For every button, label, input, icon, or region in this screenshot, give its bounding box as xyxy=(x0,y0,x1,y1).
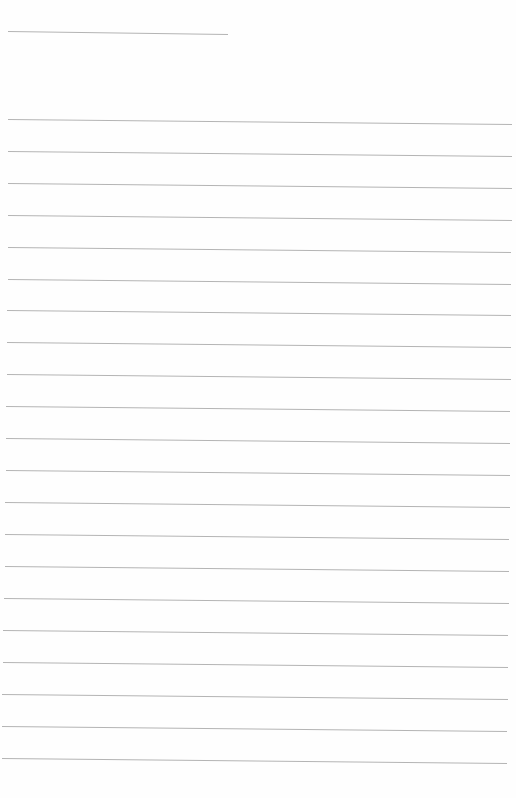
ruled-line xyxy=(8,216,512,221)
ruled-line xyxy=(8,152,512,157)
ruled-line xyxy=(5,567,509,572)
header-line xyxy=(8,32,228,35)
lined-paper-page xyxy=(0,0,516,798)
ruled-line xyxy=(6,471,510,476)
ruled-line xyxy=(8,280,511,285)
ruled-line xyxy=(7,375,511,380)
ruled-line xyxy=(3,663,508,668)
ruled-line xyxy=(4,599,509,604)
ruled-line xyxy=(3,631,508,636)
ruled-line xyxy=(7,311,511,316)
ruled-line xyxy=(6,407,510,412)
ruled-line xyxy=(6,439,510,444)
ruled-lines xyxy=(0,0,516,798)
ruled-line xyxy=(5,535,509,540)
ruled-line xyxy=(5,503,510,508)
ruled-line xyxy=(2,695,508,700)
ruled-line xyxy=(8,120,512,125)
ruled-line xyxy=(2,727,507,732)
ruled-line xyxy=(8,248,511,253)
ruled-line-group xyxy=(2,120,512,764)
ruled-line xyxy=(2,759,507,764)
ruled-line xyxy=(7,343,511,348)
ruled-line xyxy=(8,184,512,189)
